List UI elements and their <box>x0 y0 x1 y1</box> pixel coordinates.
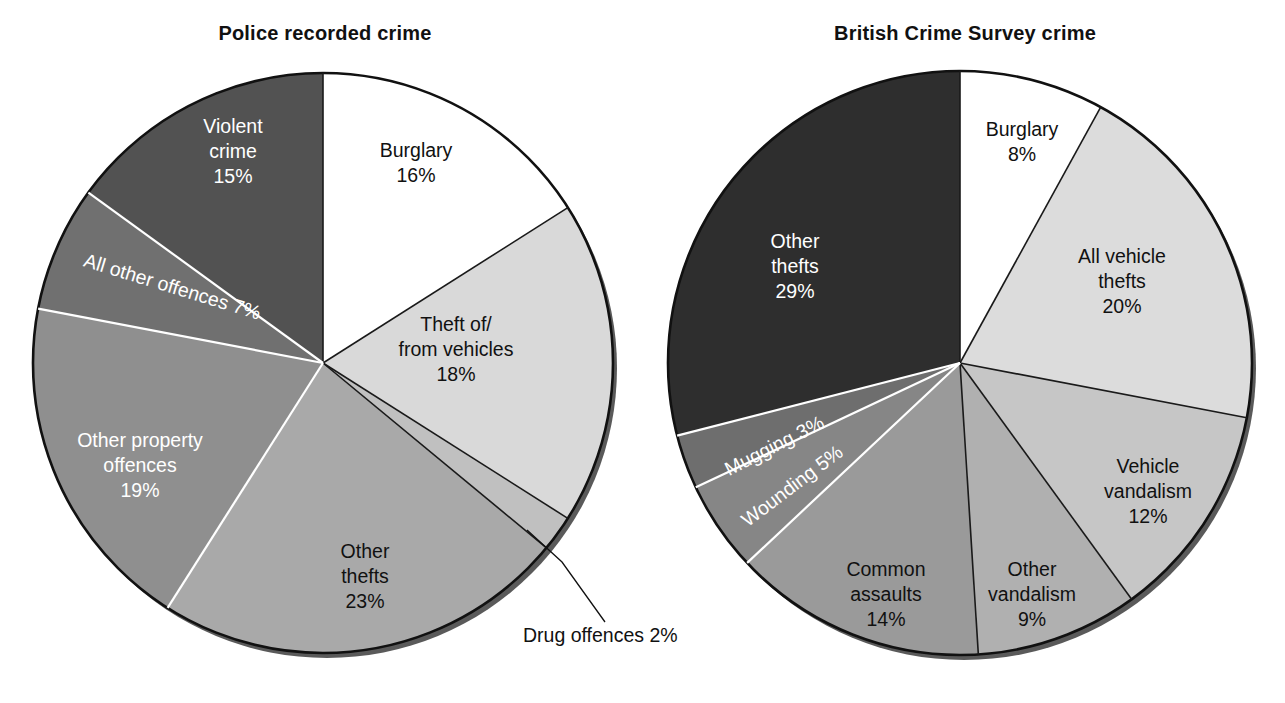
left-pie-chart: Burglary 16% Theft of/ from vehicles 18%… <box>33 73 678 658</box>
label-left-violent-value: 15% <box>213 165 252 187</box>
label-left-violent-line2: crime <box>209 140 257 162</box>
label-left-other-thefts-line2: thefts <box>341 565 389 587</box>
label-left-vehicles-value: 18% <box>436 363 475 385</box>
label-right-other-thefts-line1: Other <box>771 230 820 252</box>
label-right-assaults-value: 14% <box>866 608 905 630</box>
label-right-vehicle-vandalism-line1: Vehicle <box>1117 455 1180 477</box>
label-right-vehicle-vandalism-line2: vandalism <box>1104 480 1192 502</box>
label-right-other-vandalism-line1: Other <box>1008 558 1057 580</box>
label-left-vehicles-line2: from vehicles <box>399 338 514 360</box>
pie-chart-figure: Police recorded crime British Crime Surv… <box>0 0 1285 703</box>
label-left-drug-offences: Drug offences 2% <box>523 624 678 646</box>
label-right-assaults-line1: Common <box>846 558 925 580</box>
left-pie-drug-callout: Drug offences 2% <box>523 530 678 646</box>
pie-charts-canvas: Burglary 16% Theft of/ from vehicles 18%… <box>0 0 1285 703</box>
label-right-all-vehicle-line2: thefts <box>1098 270 1146 292</box>
label-left-violent-line1: Violent <box>203 115 263 137</box>
label-right-all-vehicle-value: 20% <box>1102 295 1141 317</box>
label-right-other-vandalism-line2: vandalism <box>988 583 1076 605</box>
label-right-other-vandalism-value: 9% <box>1018 608 1046 630</box>
label-right-other-thefts-value: 29% <box>775 280 814 302</box>
label-right-assaults-line2: assaults <box>850 583 922 605</box>
label-right-other-thefts-line2: thefts <box>771 255 819 277</box>
label-left-other-thefts-value: 23% <box>345 590 384 612</box>
label-right-all-vehicle-line1: All vehicle <box>1078 245 1166 267</box>
label-right-vehicle-vandalism-value: 12% <box>1128 505 1167 527</box>
right-pie-chart: Burglary 8% All vehicle thefts 20% Vehic… <box>668 71 1256 660</box>
label-left-vehicles-line1: Theft of/ <box>420 313 492 335</box>
label-left-burglary-name: Burglary <box>380 139 453 161</box>
label-left-property-value: 19% <box>120 479 159 501</box>
label-left-burglary-value: 16% <box>396 164 435 186</box>
label-left-property-line1: Other property <box>77 429 203 451</box>
label-right-burglary-value: 8% <box>1008 143 1036 165</box>
label-right-burglary-name: Burglary <box>986 118 1059 140</box>
label-left-property-line2: offences <box>103 454 177 476</box>
label-left-other-thefts-line1: Other <box>341 540 390 562</box>
